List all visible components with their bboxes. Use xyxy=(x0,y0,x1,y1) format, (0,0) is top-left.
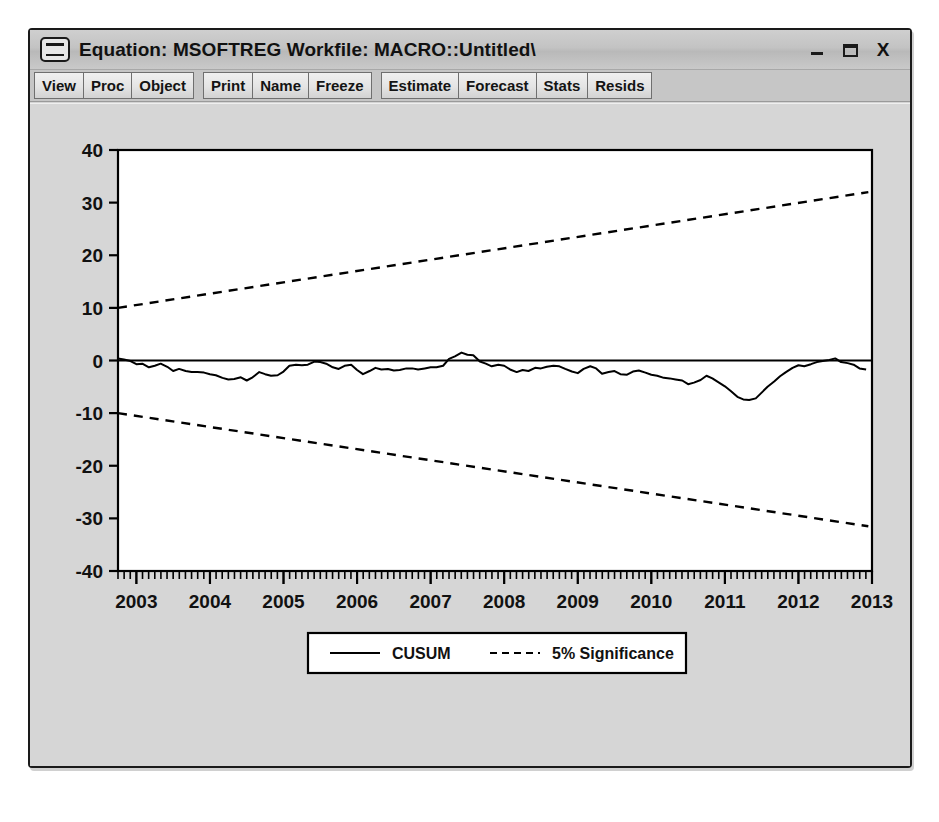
y-axis-tick-label: 40 xyxy=(82,140,103,161)
object-button[interactable]: Object xyxy=(132,73,193,98)
equation-window: Equation: MSOFTREG Workfile: MACRO::Unti… xyxy=(28,28,912,768)
toolbar: View Proc Object Print Name Freeze Estim… xyxy=(30,70,910,102)
y-axis-tick-label: -40 xyxy=(76,561,103,582)
resids-button[interactable]: Resids xyxy=(588,73,651,98)
y-axis-tick-label: 30 xyxy=(82,193,103,214)
y-axis-tick-label: 20 xyxy=(82,245,103,266)
cusum-chart: 403020100-10-20-30-402003200420052006200… xyxy=(36,110,904,736)
window-title: Equation: MSOFTREG Workfile: MACRO::Unti… xyxy=(79,39,536,61)
x-axis-tick-label: 2012 xyxy=(777,591,819,612)
legend-label-cusum: CUSUM xyxy=(392,645,451,662)
toolbar-group-output: Print Name Freeze xyxy=(203,72,372,99)
x-axis-tick-label: 2003 xyxy=(115,591,157,612)
x-axis-tick-label: 2007 xyxy=(409,591,451,612)
estimate-button[interactable]: Estimate xyxy=(382,73,460,98)
view-button[interactable]: View xyxy=(35,73,84,98)
cusum-chart-svg: 403020100-10-20-30-402003200420052006200… xyxy=(36,110,904,740)
screen: Equation: MSOFTREG Workfile: MACRO::Unti… xyxy=(0,0,939,822)
minimize-icon[interactable] xyxy=(809,41,827,59)
window-controls: X xyxy=(809,41,892,59)
x-axis-tick-label: 2010 xyxy=(630,591,672,612)
print-button[interactable]: Print xyxy=(204,73,253,98)
x-axis-tick-label: 2009 xyxy=(557,591,599,612)
x-axis-tick-label: 2006 xyxy=(336,591,378,612)
name-button[interactable]: Name xyxy=(253,73,309,98)
close-icon[interactable]: X xyxy=(874,41,892,59)
y-axis-tick-label: -20 xyxy=(76,456,103,477)
legend-label-significance: 5% Significance xyxy=(552,645,674,662)
y-axis-tick-label: 10 xyxy=(82,298,103,319)
y-axis-tick-label: 0 xyxy=(92,351,103,372)
proc-button[interactable]: Proc xyxy=(84,73,132,98)
toolbar-group-estimation: Estimate Forecast Stats Resids xyxy=(381,72,653,99)
y-axis-tick-label: -10 xyxy=(76,403,103,424)
hamburger-menu-icon[interactable] xyxy=(40,37,70,62)
stats-button[interactable]: Stats xyxy=(537,73,589,98)
x-axis-tick-label: 2013 xyxy=(851,591,893,612)
x-axis-tick-label: 2005 xyxy=(262,591,305,612)
x-axis-tick-label: 2008 xyxy=(483,591,525,612)
window-client-area: 403020100-10-20-30-402003200420052006200… xyxy=(30,103,910,766)
forecast-button[interactable]: Forecast xyxy=(459,73,537,98)
window-titlebar[interactable]: Equation: MSOFTREG Workfile: MACRO::Unti… xyxy=(30,30,910,70)
y-axis-tick-label: -30 xyxy=(76,508,103,529)
x-axis-tick-label: 2004 xyxy=(189,591,232,612)
toolbar-group-object: View Proc Object xyxy=(34,72,194,99)
freeze-button[interactable]: Freeze xyxy=(309,73,371,98)
x-axis-tick-label: 2011 xyxy=(704,591,746,612)
maximize-icon[interactable] xyxy=(843,44,858,57)
